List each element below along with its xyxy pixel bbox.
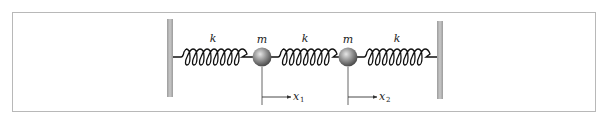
displacement-x1-subscript: 1	[300, 96, 304, 104]
right-wall	[437, 21, 443, 99]
spring-2-label: k	[302, 32, 309, 45]
left-wall	[167, 19, 173, 97]
mass-1-label: m	[257, 33, 267, 46]
displacement-x1: x 1	[262, 67, 304, 105]
mass-2	[339, 48, 358, 67]
spring-1	[173, 49, 253, 65]
spring-2	[271, 49, 339, 65]
mass-1	[253, 48, 272, 67]
displacement-x2: x 2	[348, 67, 390, 105]
spring-mass-diagram: k k k m m x 1 x 2	[0, 0, 611, 118]
displacement-x2-subscript: 2	[386, 96, 390, 104]
mass-2-label: m	[343, 33, 353, 46]
displacement-x2-label: x	[379, 90, 386, 103]
displacement-x1-label: x	[293, 90, 300, 103]
spring-3	[357, 49, 437, 65]
spring-1-label: k	[210, 32, 217, 45]
spring-3-label: k	[394, 32, 401, 45]
